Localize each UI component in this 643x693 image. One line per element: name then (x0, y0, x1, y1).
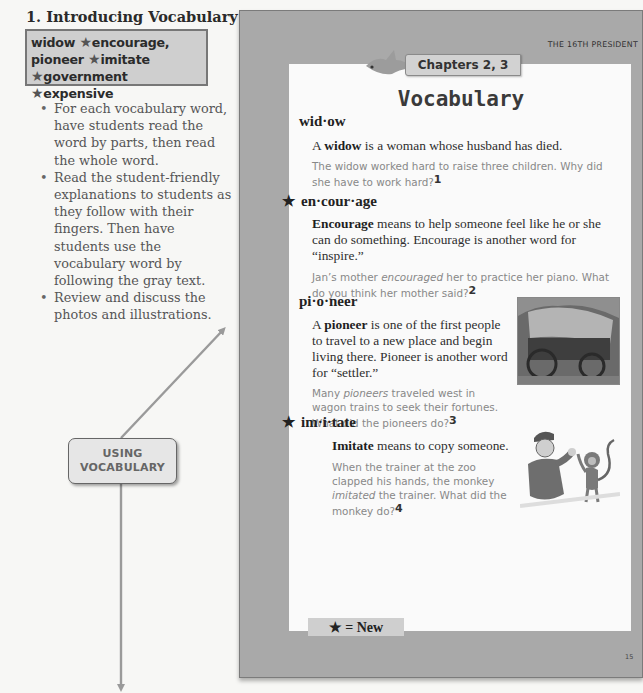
footnote-marker: 1 (434, 173, 442, 186)
entry-headword: pi·o·neer (299, 293, 357, 309)
footnote-marker: 4 (395, 502, 403, 515)
footnote-marker: 2 (469, 284, 477, 297)
entry-headword: en·cour·age (301, 193, 377, 209)
def-keyword: pioneer (324, 317, 367, 332)
chapter-tab: Chapters 2, 3 (405, 54, 521, 76)
entry-example: When the trainer at the zoo clapped his … (332, 460, 510, 518)
footnote-marker: 3 (449, 414, 457, 427)
def-keyword: Encourage (312, 216, 374, 231)
page-number: 15 (625, 653, 633, 661)
example-text: The widow worked hard to raise three chi… (312, 160, 603, 188)
running-head: THE 16TH PRESIDENT (548, 40, 638, 49)
callout-line: USING (80, 447, 165, 461)
star-icon: ★ (282, 193, 295, 209)
example-keyword: encouraged (381, 271, 443, 283)
entry-definition: A pioneer is one of the first people to … (312, 317, 508, 381)
entry-word-encourage: ★en·cour·age (282, 192, 377, 210)
example-keyword: pioneers (343, 387, 388, 399)
using-vocabulary-callout: USING VOCABULARY (68, 438, 177, 484)
star-icon: ★ (282, 414, 295, 430)
def-keyword: Imitate (332, 438, 374, 453)
example-text: Many (312, 387, 343, 399)
new-word-legend: ★ = New (308, 618, 404, 636)
arrow-up-right-icon (121, 330, 223, 438)
def-text: is a woman whose husband has died. (362, 138, 563, 153)
entry-definition: A widow is a woman whose husband has die… (312, 138, 622, 154)
page-title: Vocabulary (290, 87, 632, 111)
def-text: means to copy someone. (374, 438, 509, 453)
example-keyword: imitated (332, 489, 375, 501)
entry-headword: im·i·tate (301, 414, 356, 430)
example-text: When the trainer at the zoo clapped his … (332, 461, 494, 487)
trainer-monkey-illustration (520, 424, 620, 509)
example-text: Jan’s mother (312, 271, 381, 283)
def-keyword: widow (324, 138, 361, 153)
entry-example: The widow worked hard to raise three chi… (312, 159, 612, 189)
entry-word-pioneer: pi·o·neer (299, 293, 357, 310)
wagon-image-icon (518, 298, 619, 384)
entry-definition: Encourage means to help someone feel lik… (312, 216, 617, 264)
entry-definition: Imitate means to copy someone. (332, 438, 532, 454)
def-text: A (312, 138, 324, 153)
def-text: A (312, 317, 324, 332)
callout-line: VOCABULARY (80, 461, 165, 475)
entry-word-imitate: ★im·i·tate (282, 413, 356, 431)
entry-word-widow: wid·ow (299, 113, 346, 130)
entry-headword: wid·ow (299, 113, 346, 129)
covered-wagon-photo (517, 297, 620, 385)
